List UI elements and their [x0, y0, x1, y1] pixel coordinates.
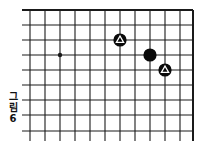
star-point-icon — [58, 53, 62, 57]
go-board-diagram — [0, 0, 207, 152]
caption-char-2: 림 — [6, 102, 20, 113]
caption-char-1: 그 — [6, 91, 20, 102]
figure-caption: 그 림 6 — [6, 91, 20, 124]
caption-char-3: 6 — [6, 113, 20, 124]
black-stone — [143, 48, 156, 61]
